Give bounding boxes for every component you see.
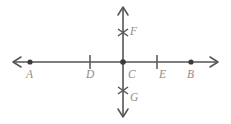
point-label-e: E [159, 69, 166, 81]
point-dot-c [120, 59, 126, 65]
point-label-f: F [130, 26, 137, 38]
point-dot-b [188, 59, 193, 64]
point-label-a: A [26, 69, 33, 81]
point-label-b: B [187, 69, 194, 81]
point-label-g: G [130, 92, 138, 104]
figure-canvas [0, 0, 231, 124]
point-label-c: C [128, 69, 136, 81]
point-dot-a [27, 59, 32, 64]
geometry-figure: A D C E B F G [0, 0, 231, 124]
point-label-d: D [86, 69, 94, 81]
